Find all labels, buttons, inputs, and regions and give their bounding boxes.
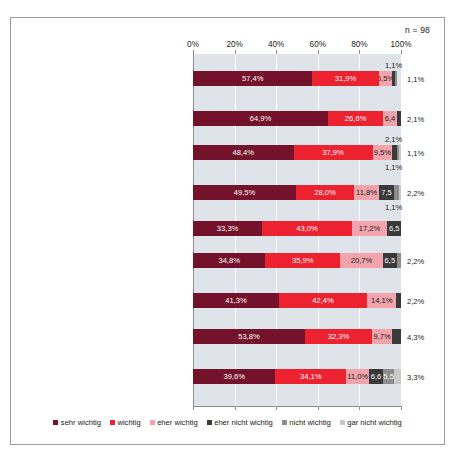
bar-segment[interactable] (397, 111, 401, 126)
stacked-bar[interactable]: 49,5%28,0%11,8%7,5 (193, 185, 401, 200)
segment-value-label: 6,6 (371, 373, 382, 381)
bar-segment[interactable]: 20,7% (340, 253, 383, 268)
segment-value-label: 39,6% (223, 373, 245, 381)
chart-frame: n = 98 0%20%40%60%80%100% Die Bildungszi… (10, 17, 445, 445)
legend-item[interactable]: eher wichtig (150, 418, 198, 427)
bar-segment[interactable]: 7,5 (379, 185, 395, 200)
segment-value-label: 6,5 (385, 257, 396, 265)
segment-value-label-below: 1,1% (385, 203, 402, 212)
bar-segment[interactable]: 34,8% (193, 253, 265, 268)
x-axis-tick-labels: 0%20%40%60%80%100% (193, 40, 401, 52)
x-tick-60: 60% (310, 40, 326, 49)
bar-segment[interactable]: 17,2% (352, 221, 388, 236)
segment-value-label-outside: 2,2% (407, 257, 424, 266)
bar-segment[interactable]: 37,9% (294, 145, 373, 160)
bar-segment[interactable]: 9,5% (373, 145, 393, 160)
segment-value-label: 32,3% (328, 333, 350, 341)
stacked-bar[interactable]: 57,4%31,9%6,5% (193, 71, 397, 86)
segment-value-label: 11,0% (347, 373, 368, 381)
bar-segment[interactable]: 26,6% (328, 111, 383, 126)
bar-segment[interactable]: 43,0% (262, 221, 351, 236)
legend-swatch-icon (110, 420, 115, 425)
bar-segment[interactable] (396, 293, 401, 308)
bar-segment[interactable]: 6,6 (369, 369, 383, 384)
segment-value-label: 5,5 (383, 373, 394, 381)
segment-value-label: 14,1% (371, 297, 393, 305)
legend-item[interactable]: sehr wichtig (53, 418, 101, 427)
legend-swatch-icon (282, 420, 287, 425)
bar-segment[interactable]: 9,7% (372, 329, 392, 344)
segment-value-label: 31,9% (335, 75, 357, 83)
x-tick-0: 0% (187, 40, 199, 49)
stacked-bar[interactable]: 41,3%42,4%14,1% (193, 293, 401, 308)
bar-segment[interactable]: 6,5 (387, 221, 401, 236)
bar-segment[interactable]: 6,5 (383, 253, 397, 268)
segment-value-label: 57,4% (242, 75, 264, 83)
bar-segment[interactable]: 57,4% (193, 71, 312, 86)
bar-segment[interactable]: 11,0% (346, 369, 369, 384)
x-tickmark (401, 406, 402, 410)
stacked-bar[interactable]: 39,6%34,1%11,0%6,65,5 (193, 369, 401, 384)
bar-segment[interactable]: 42,4% (279, 293, 367, 308)
x-tickmark-top (401, 50, 402, 54)
bar-segment[interactable]: 34,1% (275, 369, 346, 384)
segment-value-label-below: 1,1% (385, 163, 402, 172)
legend-item[interactable]: wichtig (110, 418, 141, 427)
bar-segment[interactable] (399, 145, 401, 160)
stacked-bar[interactable]: 64,9%26,6%6,4 (193, 111, 401, 126)
x-tickmark-top (235, 50, 236, 54)
legend-swatch-icon (53, 420, 58, 425)
bar-segment[interactable]: 28,0% (296, 185, 354, 200)
bar-segment[interactable]: 5,5 (383, 369, 394, 384)
legend-label: sehr wichtig (61, 418, 101, 427)
stacked-bar[interactable]: 34,8%35,9%20,7%6,5 (193, 253, 401, 268)
bar-segment[interactable]: 41,3% (193, 293, 279, 308)
bar-segment[interactable]: 35,9% (265, 253, 340, 268)
x-axis-line (193, 406, 402, 407)
segment-value-label: 28,0% (314, 189, 336, 197)
bar-segment[interactable] (397, 253, 402, 268)
bar-segment[interactable]: 6,4 (383, 111, 396, 126)
bar-segment[interactable]: 49,5% (193, 185, 296, 200)
bar-segment[interactable]: 48,4% (193, 145, 294, 160)
bar-segment[interactable] (399, 185, 401, 200)
bar-segment[interactable]: 39,6% (193, 369, 275, 384)
segment-value-label: 7,5 (381, 189, 392, 197)
stacked-bar[interactable]: 53,8%32,3%9,7% (193, 329, 401, 344)
segment-value-label-outside: 2,2% (407, 297, 424, 306)
x-tickmark-top (318, 50, 319, 54)
x-tickmark-top (359, 50, 360, 54)
bar-segment[interactable]: 53,8% (193, 329, 305, 344)
stacked-bar[interactable]: 48,4%37,9%9,5% (193, 145, 401, 160)
legend-label: wichtig (117, 418, 140, 427)
segment-value-label: 64,9% (250, 115, 272, 123)
legend-item[interactable]: eher nicht wichtig (207, 418, 273, 427)
segment-value-label: 42,4% (312, 297, 334, 305)
bar-segment[interactable]: 33,3% (193, 221, 262, 236)
bar-segment[interactable] (392, 329, 401, 344)
segment-value-label-above: 1,1% (385, 61, 402, 70)
segment-value-label: 43,0% (296, 225, 318, 233)
segment-value-label-outside: 4,3% (407, 333, 424, 342)
x-tickmark-top (193, 50, 194, 54)
x-tickmark (276, 406, 277, 410)
x-tickmark (193, 406, 194, 410)
bar-segment[interactable]: 11,8% (354, 185, 379, 200)
legend-item[interactable]: gar nicht wichtig (340, 418, 402, 427)
bar-segment[interactable]: 31,9% (312, 71, 378, 86)
bar-segment[interactable] (394, 369, 401, 384)
segment-value-label: 53,8% (238, 333, 260, 341)
sample-size-label: n = 98 (405, 25, 430, 35)
legend-swatch-icon (207, 420, 212, 425)
legend-item[interactable]: nicht wichtig (282, 418, 331, 427)
bar-segment[interactable]: 6,5% (379, 71, 393, 86)
bar-segment[interactable]: 14,1% (367, 293, 396, 308)
stacked-bar[interactable]: 33,3%43,0%17,2%6,5 (193, 221, 401, 236)
bar-segment[interactable]: 32,3% (305, 329, 372, 344)
legend-label: eher wichtig (157, 418, 198, 427)
x-tickmark-top (276, 50, 277, 54)
bar-segment[interactable]: 64,9% (193, 111, 328, 126)
bar-segment[interactable] (395, 71, 397, 86)
legend-label: gar nicht wichtig (347, 418, 401, 427)
legend-label: nicht wichtig (289, 418, 330, 427)
